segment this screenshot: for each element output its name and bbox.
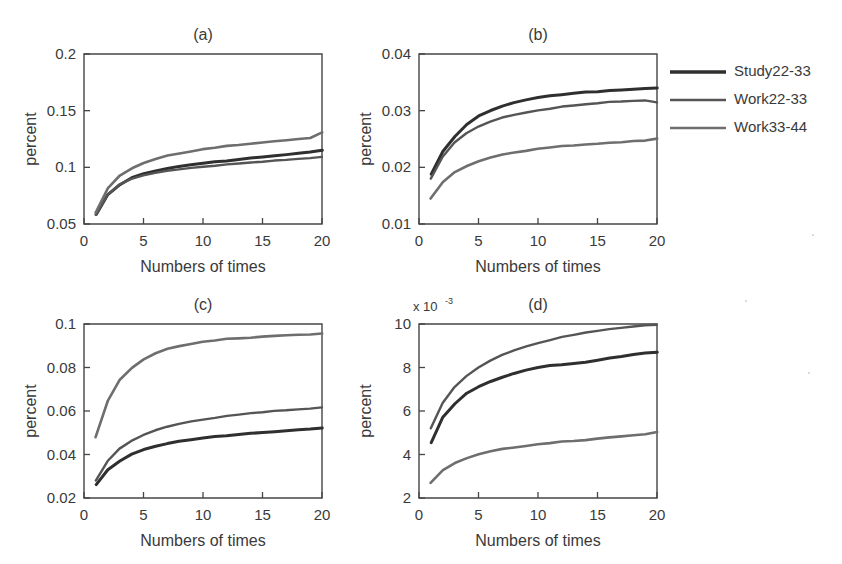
x-tick-label: 5 [474,232,482,249]
x-tick-label: 15 [589,232,606,249]
exponent-base: x 10 [413,299,438,314]
series-line-work22-33 [431,325,657,429]
legend-item[interactable]: Study22-33 [670,62,811,79]
y-tick-label: 2 [403,489,411,506]
y-tick-label: 0.06 [47,402,76,419]
axis-box [419,324,657,498]
scan-speck [812,234,814,236]
x-tick-label: 15 [254,506,271,523]
legend-item[interactable]: Work22-33 [670,90,807,107]
series-line-study22-33 [431,352,657,442]
series-line-work22-33 [96,157,322,215]
y-tick-label: 0.2 [55,45,76,62]
y-tick-label: 4 [403,446,411,463]
legend-label-2: Work33-44 [734,118,807,135]
plot-c: (c)0.020.040.060.080.105101520Numbers of… [10,288,340,560]
subplot-c: (c)0.020.040.060.080.105101520Numbers of… [10,288,340,560]
subplot-title-d: (d) [528,296,548,313]
legend-label-0: Study22-33 [734,62,811,79]
scan-speck [808,372,810,374]
y-tick-label: 8 [403,359,411,376]
subplot-d: (d)x 10-324681005101520Numbers of timesp… [345,288,675,560]
y-tick-label: 10 [394,315,411,332]
y-tick-label: 0.1 [55,158,76,175]
x-axis-title: Numbers of times [475,258,600,275]
x-tick-label: 15 [589,506,606,523]
subplot-title-a: (a) [193,26,213,43]
x-tick-label: 20 [314,506,331,523]
subplot-b: (b)0.010.020.030.0405101520Numbers of ti… [345,18,675,286]
y-axis-title: percent [22,112,39,166]
y-axis-title: percent [357,384,374,438]
y-tick-label: 6 [403,402,411,419]
y-tick-label: 0.04 [382,45,411,62]
x-axis-title: Numbers of times [140,532,265,549]
plot-a: (a)0.050.10.150.205101520Numbers of time… [10,18,340,286]
legend-svg: Study22-33Work22-33Work33-44 [668,60,840,148]
y-axis-title: percent [357,112,374,166]
x-axis-title: Numbers of times [140,258,265,275]
y-axis-title: percent [22,384,39,438]
x-tick-label: 20 [649,506,666,523]
series-line-work33-44 [96,333,323,437]
subplot-title-c: (c) [194,296,213,313]
exponent-power: -3 [445,296,453,306]
x-tick-label: 5 [139,506,147,523]
y-tick-label: 0.15 [47,102,76,119]
series-line-work22-33 [96,407,322,480]
y-tick-label: 0.02 [47,489,76,506]
y-tick-label: 0.02 [382,158,411,175]
figure-canvas: (a)0.050.10.150.205101520Numbers of time… [0,0,842,564]
x-tick-label: 20 [314,232,331,249]
x-tick-label: 10 [530,506,547,523]
series-line-work33-44 [431,139,658,199]
y-tick-label: 0.01 [382,215,411,232]
x-tick-label: 0 [80,232,88,249]
series-line-work33-44 [96,132,323,212]
series-line-study22-33 [96,428,322,485]
x-tick-label: 0 [415,232,423,249]
plot-b: (b)0.010.020.030.0405101520Numbers of ti… [345,18,675,286]
subplot-a: (a)0.050.10.150.205101520Numbers of time… [10,18,340,286]
x-tick-label: 10 [530,232,547,249]
y-tick-label: 0.1 [55,315,76,332]
x-tick-label: 5 [139,232,147,249]
x-tick-label: 10 [195,232,212,249]
scan-speck [745,300,747,302]
x-tick-label: 20 [649,232,666,249]
x-tick-label: 10 [195,506,212,523]
y-tick-label: 0.05 [47,215,76,232]
subplot-title-b: (b) [528,26,548,43]
series-line-work33-44 [431,432,658,483]
y-tick-label: 0.08 [47,359,76,376]
x-tick-label: 0 [80,506,88,523]
x-axis-title: Numbers of times [475,532,600,549]
legend-item[interactable]: Work33-44 [670,118,807,135]
axis-exponent-label: x 10-3 [413,296,453,314]
x-tick-label: 5 [474,506,482,523]
y-tick-label: 0.03 [382,102,411,119]
y-tick-label: 0.04 [47,446,76,463]
legend-label-1: Work22-33 [734,90,807,107]
plot-d: (d)x 10-324681005101520Numbers of timesp… [345,288,675,560]
chart-legend: Study22-33Work22-33Work33-44 [668,60,840,148]
x-tick-label: 15 [254,232,271,249]
x-tick-label: 0 [415,506,423,523]
